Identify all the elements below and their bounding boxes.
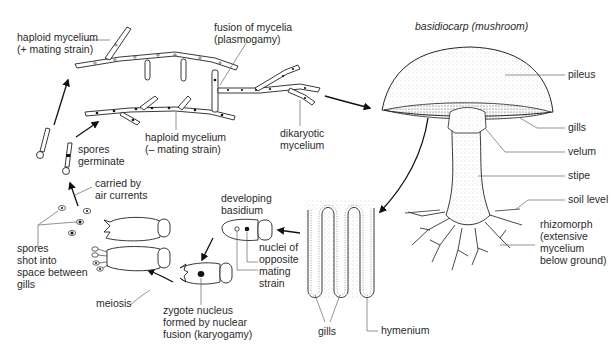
rhizomorph-label-3: mycelium [540, 242, 585, 254]
soil-level-label: soil level [568, 193, 608, 205]
nuclei-label-1: nuclei of [259, 241, 298, 253]
mushroom [382, 47, 553, 270]
hymenium-label: hymenium [381, 324, 430, 336]
dikaryotic-mycelium [218, 65, 320, 105]
arrow-to-meiosis [148, 270, 173, 282]
dikaryotic-label-2: mycelium [280, 139, 325, 151]
haploid-minus-label-2: (– mating strain) [145, 143, 221, 155]
germinating-spores [37, 128, 73, 175]
zygote-label-3: fusion (karyogamy) [163, 328, 252, 340]
gills-section-label: gills [318, 325, 336, 337]
meiosis-leader [130, 290, 150, 305]
spores-germinate-label-1: spores [78, 143, 110, 155]
velum-leader [485, 128, 565, 152]
fungus-life-cycle-diagram: basidiocarp (mushroom) haploid mycelium … [0, 0, 616, 350]
mature-basidium [92, 247, 170, 272]
spores [59, 206, 91, 236]
fusion-label-2: (plasmogamy) [214, 33, 281, 45]
spores-shot-label-1: spores [17, 242, 49, 254]
upper-basidium [104, 217, 170, 241]
nuclei-label-4: strain [259, 277, 285, 289]
haploid-plus-label-2: (+ mating strain) [17, 43, 93, 55]
developing-basidium-label-1: developing [221, 192, 272, 204]
mushroom-title: basidiocarp (mushroom) [415, 20, 528, 32]
zygote-label-1: zygote nucleus [163, 304, 233, 316]
spores-shot-label-4: gills [17, 278, 35, 290]
zygote-basidium [180, 263, 232, 284]
velum-label: velum [568, 145, 596, 157]
nuclei-label-3: mating [259, 265, 291, 277]
zygote-label-2: formed by nuclear [163, 316, 248, 328]
gills-cross-section [305, 200, 375, 300]
developing-basidium-label-2: basidium [221, 204, 263, 216]
stipe-label: stipe [568, 169, 590, 181]
arrow-to-gill-section [380, 118, 428, 212]
carried-leader [75, 187, 92, 195]
nuclei-label-2: opposite [259, 253, 299, 265]
rhizomorph-label-4: below ground) [540, 254, 607, 266]
spores-shot-label-3: space between [17, 266, 88, 278]
hymenium-leader [367, 298, 378, 331]
fusion-label-1: fusion of mycelia [214, 21, 292, 33]
soil-level-leader [515, 200, 565, 210]
arrow-to-mushroom [325, 96, 370, 108]
dikaryotic-label-1: dikaryotic [280, 127, 324, 139]
arrow-to-zygote [202, 238, 213, 260]
gills-leader [520, 118, 565, 128]
gills-label: gills [568, 121, 586, 133]
arrow-to-haploid-plus [54, 80, 68, 125]
haploid-minus-label-1: haploid mycelium [145, 131, 226, 143]
carried-label-2: air currents [95, 189, 148, 201]
pileus-label: pileus [568, 68, 595, 80]
haploid-minus-mycelium [85, 70, 235, 125]
arrow-to-haploid-minus [76, 122, 98, 137]
rhizomorph-label-2: (extensive [540, 230, 588, 242]
spores-shot-label-2: shot into [17, 254, 57, 266]
meiosis-label: meiosis [96, 297, 132, 309]
haploid-plus-label-1: haploid mycelium [17, 31, 98, 43]
spores-germinate-label-2: germinate [78, 155, 125, 167]
carried-label-1: carried by [95, 177, 142, 189]
rhizomorph-label-1: rhizomorph [540, 218, 593, 230]
arrow-to-basidium [278, 230, 300, 233]
